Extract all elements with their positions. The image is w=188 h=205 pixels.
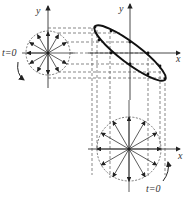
rotation-arrow-icon	[18, 62, 24, 80]
bottom-t0-label: t=0	[146, 183, 161, 194]
left-phasor-circle: y t=0	[2, 5, 75, 88]
vertical-projection-lines	[92, 28, 165, 178]
rotation-arrow-icon	[163, 162, 168, 181]
left-y-label: y	[35, 5, 41, 16]
bottom-phasor-circle: x t=0	[88, 100, 183, 194]
ellipse-x-label: x	[175, 53, 181, 64]
ellipse-y-label: y	[118, 3, 124, 14]
polarization-ellipse-plot: y x	[88, 3, 181, 100]
bottom-x-label: x	[177, 150, 183, 161]
polarization-diagram: y t=0	[0, 0, 188, 205]
left-t0-label: t=0	[2, 47, 17, 58]
